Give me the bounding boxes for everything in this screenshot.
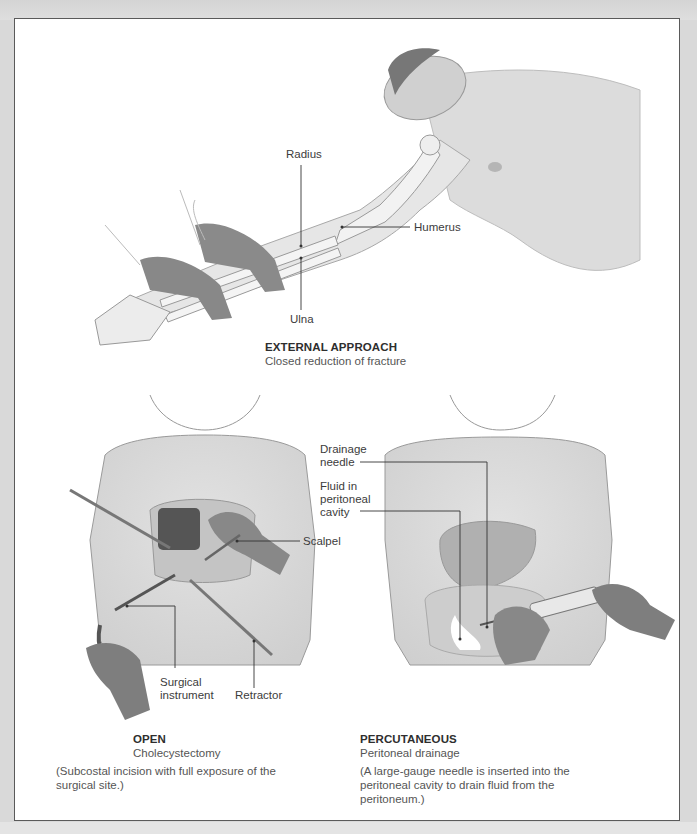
label-fluid-in-peritoneal-cavity: Fluid in peritoneal cavity [320, 480, 371, 519]
caption-subtitle-open: Cholecystectomy [133, 747, 221, 759]
label-humerus: Humerus [414, 221, 461, 234]
open-surgery-illustration [70, 395, 315, 720]
caption-description-open: (Subcostal incision with full exposure o… [56, 764, 296, 792]
label-scalpel: Scalpel [303, 535, 341, 548]
caption-title-percutaneous: PERCUTANEOUS [360, 733, 457, 745]
label-surgical-instrument: Surgical instrument [160, 676, 214, 702]
caption-subtitle-percutaneous: Peritoneal drainage [360, 747, 460, 759]
label-retractor: Retractor [235, 689, 282, 702]
label-ulna: Ulna [290, 313, 314, 326]
caption-title-open: OPEN [133, 733, 166, 745]
caption-subtitle-external-approach: Closed reduction of fracture [265, 355, 406, 367]
caption-title-external-approach: EXTERNAL APPROACH [265, 341, 397, 353]
illustration-canvas [0, 0, 697, 834]
label-radius: Radius [286, 148, 322, 161]
percutaneous-illustration [360, 395, 675, 665]
external-approach-illustration [95, 45, 640, 345]
caption-description-percutaneous: (A large-gauge needle is inserted into t… [360, 764, 610, 806]
label-drainage-needle: Drainage needle [320, 443, 367, 469]
